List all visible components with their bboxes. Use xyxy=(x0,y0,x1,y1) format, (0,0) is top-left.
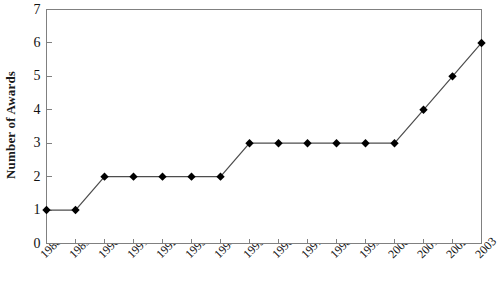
awards-line-chart: Number of Awards 01234567 19881989199019… xyxy=(0,0,499,298)
plot-area xyxy=(0,0,499,298)
plot-frame-border xyxy=(47,10,482,244)
